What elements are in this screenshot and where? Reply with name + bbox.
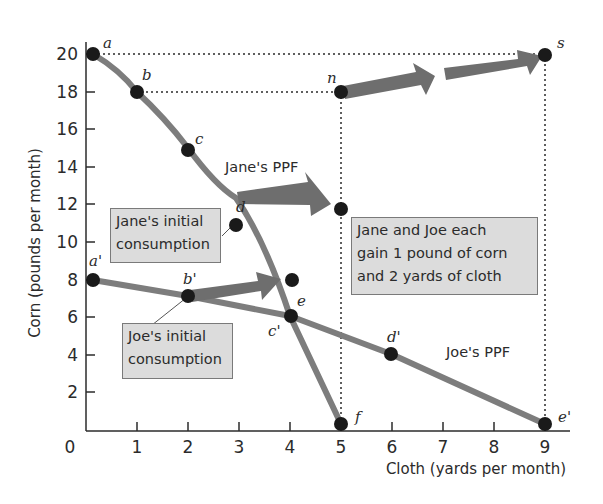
jane-initial-line-2: consumption: [116, 233, 215, 256]
point-f: [334, 417, 348, 431]
jane-initial-consumption-box: Jane's initial consumption: [110, 208, 221, 263]
joe-initial-consumption-box: Joe's initial consumption: [122, 323, 233, 379]
point-a-prime: [86, 273, 100, 287]
x-axis-title: Cloth (yards per month): [386, 460, 566, 478]
x-tick-label: 5: [336, 437, 347, 457]
jane-gain-arrow: [237, 172, 331, 216]
x-tick-label: 6: [387, 437, 398, 457]
joe-callout-leader: [152, 298, 186, 325]
label-e-prime: e': [558, 408, 571, 426]
y-tick-label: 10: [56, 232, 78, 252]
jane-ppf-label: Jane's PPF: [224, 159, 298, 175]
point-d-prime: [384, 347, 398, 361]
x-tick-label: 4: [285, 437, 296, 457]
label-c-prime: c': [268, 322, 281, 340]
label-b: b: [142, 66, 152, 84]
origin-label: 0: [65, 437, 76, 457]
label-d: d: [236, 198, 246, 216]
point-e-prime: [538, 417, 552, 431]
point-n: [334, 85, 348, 99]
y-tick-label: 8: [67, 270, 78, 290]
label-d-prime: d': [387, 328, 401, 346]
x-tick-label: 8: [489, 437, 500, 457]
y-axis-title: Corn (pounds per month): [26, 148, 44, 338]
x-tick-label: 3: [234, 437, 245, 457]
y-tick-label: 16: [56, 119, 78, 139]
y-tick-label: 6: [67, 307, 78, 327]
point-d: [229, 218, 243, 232]
point-c: [181, 143, 195, 157]
label-c: c: [195, 130, 204, 148]
x-tick-label: 2: [183, 437, 194, 457]
point-e: [284, 309, 298, 323]
x-tick-label: 9: [540, 437, 551, 457]
y-tick-labels: 2 4 6 8 10 12 14 16 18 20: [56, 44, 78, 402]
label-f: f: [354, 408, 363, 426]
jane-after-trade-point: [334, 202, 348, 216]
joe-ppf-label: Joe's PPF: [445, 344, 510, 360]
jane-initial-line-1: Jane's initial: [116, 210, 215, 233]
joe-initial-line-2: consumption: [128, 348, 227, 371]
label-a-prime: a': [89, 252, 102, 270]
joe-initial-line-1: Joe's initial: [128, 325, 227, 348]
label-a: a: [103, 34, 112, 52]
label-e: e: [297, 292, 306, 310]
y-tick-label: 12: [56, 194, 78, 214]
y-tick-label: 14: [56, 157, 78, 177]
gain-note-line-2: gain 1 pound of corn: [357, 242, 532, 265]
y-tick-label: 18: [56, 82, 78, 102]
gain-note-line-3: and 2 yards of cloth: [357, 265, 532, 288]
x-tick-label: 1: [132, 437, 143, 457]
label-n: n: [327, 69, 337, 87]
y-tick-label: 2: [67, 382, 78, 402]
y-tick-label: 20: [56, 44, 78, 64]
x-tick-labels: 0 1 2 3 4 5 6 7 8 9: [65, 437, 551, 457]
gain-from-trade-box: Jane and Joe each gain 1 pound of corn a…: [351, 217, 538, 295]
joe-gain-arrow: [190, 272, 281, 302]
y-tick-label: 4: [67, 345, 78, 365]
point-s: [538, 48, 552, 62]
label-s: s: [557, 34, 565, 52]
point-b-prime: [181, 289, 195, 303]
specialization-arrow-1: [343, 63, 435, 99]
point-b: [130, 85, 144, 99]
point-a: [86, 47, 100, 61]
gain-note-line-1: Jane and Joe each: [357, 219, 532, 242]
x-tick-label: 7: [438, 437, 449, 457]
label-b-prime: b': [183, 270, 197, 288]
joe-after-trade-point: [285, 273, 299, 287]
